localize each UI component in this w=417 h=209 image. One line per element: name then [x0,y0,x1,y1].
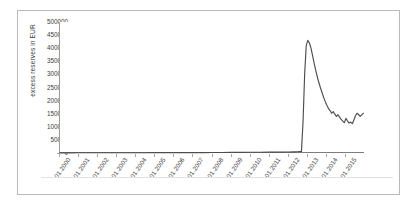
x-tick-mark [135,154,136,157]
x-tick-label: 01.2002 [91,156,110,179]
y-tick-mark [57,114,60,115]
x-tick-mark [154,154,155,157]
y-tick-mark [57,88,60,89]
y-tick-mark [57,22,60,23]
line-series-svg [60,22,365,153]
x-tick-mark [78,154,79,157]
axis-baseline-divider [41,177,393,178]
x-tick-label: 01.2004 [129,156,148,179]
x-tick-label: 01.2013 [300,156,319,179]
x-tick-mark [192,154,193,157]
x-tick-mark [269,154,270,157]
x-tick-mark [288,154,289,157]
x-tick-label: 01.2014 [319,156,338,179]
x-tick-mark [173,154,174,157]
x-axis-tick-labels: 01.200001.200101.200201.200301.200401.20… [59,154,379,196]
y-tick-mark [57,35,60,36]
x-tick-mark [345,154,346,157]
chart-frame: excess reserves in EUR 50000045000040000… [17,10,400,195]
x-tick-label: 01.2011 [262,156,281,179]
plot-area [59,22,364,153]
x-tick-label: 01.2005 [148,156,167,179]
chart-figure: excess reserves in EUR 50000045000040000… [0,0,417,209]
x-tick-label: 01.2010 [243,156,262,179]
x-tick-label: 01.2008 [205,156,224,179]
x-tick-label: 01.2003 [110,156,129,179]
x-tick-mark [307,154,308,157]
y-tick-mark [57,48,60,49]
x-tick-mark [326,154,327,157]
x-tick-label: 01.2009 [224,156,243,179]
x-tick-label: 01.2006 [167,156,186,179]
y-tick-mark [57,127,60,128]
x-tick-mark [212,154,213,157]
x-tick-mark [250,154,251,157]
x-tick-mark [231,154,232,157]
x-tick-label: 01.2001 [72,156,91,179]
x-tick-label: 01.2012 [281,156,300,179]
y-tick-mark [57,61,60,62]
series-line-excess-reserves [60,40,363,152]
y-tick-mark [57,74,60,75]
x-tick-mark [116,154,117,157]
x-tick-label: 01.2007 [186,156,205,179]
y-tick-mark [57,101,60,102]
y-tick-mark [57,140,60,141]
x-tick-label: 01.2015 [338,156,357,179]
x-tick-mark [59,154,60,157]
x-tick-mark [97,154,98,157]
